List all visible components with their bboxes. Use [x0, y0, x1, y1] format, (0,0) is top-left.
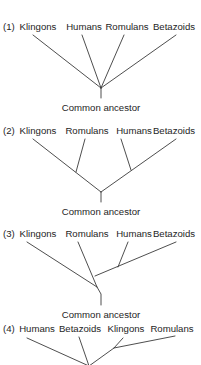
tree-1-taxon-3: Romulans — [105, 21, 148, 32]
tree-1-number: (1) — [3, 21, 15, 32]
tree-4-taxon-2: Betazoids — [59, 323, 101, 334]
tree-3-taxon-2: Romulans — [65, 228, 108, 239]
tree-2-branches — [33, 139, 176, 202]
tree-3-taxon-4: Betazoids — [153, 228, 195, 239]
tree-1-taxon-4: Betazoids — [153, 21, 195, 32]
tree-2-number: (2) — [3, 125, 15, 136]
tree-4-taxon-3: Klingons — [108, 323, 145, 334]
phylogenetic-tree-diagram: (1) Klingons Humans Romulans Betazoids C… — [0, 0, 201, 365]
tree-4-taxon-4: Romulans — [150, 323, 193, 334]
tree-1-ancestor-label: Common ancestor — [62, 102, 140, 113]
tree-1-taxon-1: Klingons — [20, 21, 57, 32]
tree-2-taxon-4: Betazoids — [153, 125, 195, 136]
tree-4-taxon-1: Humans — [19, 323, 55, 334]
tree-2-ancestor-label: Common ancestor — [62, 206, 140, 217]
tree-2-taxon-2: Romulans — [65, 125, 108, 136]
tree-4-branches — [27, 336, 175, 365]
tree-1-taxon-2: Humans — [66, 21, 102, 32]
tree-1-branches — [33, 35, 176, 98]
tree-3-ancestor-label: Common ancestor — [62, 309, 140, 320]
tree-3-taxon-3: Humans — [116, 228, 152, 239]
tree-3-branches — [27, 242, 176, 305]
tree-2-taxon-1: Klingons — [20, 125, 57, 136]
tree-3-number: (3) — [3, 228, 15, 239]
tree-4-number: (4) — [3, 323, 15, 334]
tree-2-taxon-3: Humans — [116, 125, 152, 136]
tree-3-taxon-1: Klingons — [20, 228, 57, 239]
